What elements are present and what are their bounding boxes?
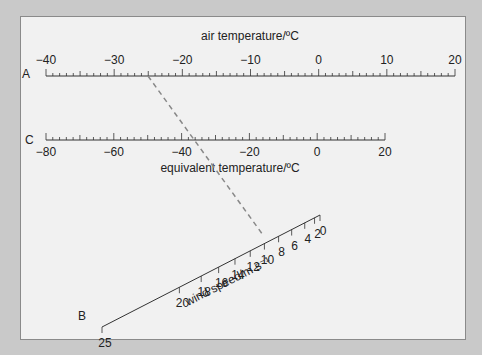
scale-a-label: 20 bbox=[448, 53, 462, 67]
scale-b-label: 4 bbox=[304, 232, 311, 246]
scale-c-title: equivalent temperature/ºC bbox=[160, 161, 299, 175]
scale-b: 2520181614121086420 B wind speed/m s⁻¹ bbox=[78, 215, 327, 350]
scale-a: −40−30−20−1001020 A air temperature/ºC bbox=[22, 29, 462, 81]
scale-b-label: 6 bbox=[291, 239, 298, 253]
scale-a-label: −20 bbox=[172, 53, 193, 67]
scale-b-label: 8 bbox=[278, 245, 285, 259]
scale-c-label: 20 bbox=[378, 145, 392, 159]
nomogram-svg: −40−30−20−1001020 A air temperature/ºC −… bbox=[0, 0, 482, 355]
scale-c-label: −60 bbox=[104, 145, 125, 159]
scale-a-label: 10 bbox=[380, 53, 394, 67]
scale-c-label: −40 bbox=[171, 145, 192, 159]
scale-c-letter: C bbox=[25, 133, 34, 147]
scale-a-letter: A bbox=[22, 67, 30, 81]
scale-c: −80−60−40−20020 C equivalent temperature… bbox=[25, 133, 392, 175]
scale-b-letter: B bbox=[78, 309, 86, 323]
scale-c-label: 0 bbox=[314, 145, 321, 159]
scale-b-label: 25 bbox=[98, 336, 112, 350]
scale-c-label: −20 bbox=[239, 145, 260, 159]
scale-b-label: 0 bbox=[320, 224, 327, 238]
scale-a-label: 0 bbox=[315, 53, 322, 67]
scale-a-label: −10 bbox=[240, 53, 261, 67]
scale-a-label: −40 bbox=[36, 53, 57, 67]
scale-a-title: air temperature/ºC bbox=[201, 29, 299, 43]
scale-a-label: −30 bbox=[104, 53, 125, 67]
scale-c-label: −80 bbox=[36, 145, 57, 159]
